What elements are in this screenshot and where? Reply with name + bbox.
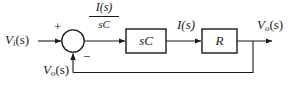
fraction-bar bbox=[89, 16, 119, 17]
plus-sign: + bbox=[54, 20, 61, 33]
feedback-label: Vo(s) bbox=[43, 63, 69, 78]
fraction-denominator: sC bbox=[86, 18, 122, 31]
block-diagram: Vi(s) + − I(s) sC sC I(s) R Vo(s) Vo(s) bbox=[0, 0, 295, 89]
output-symbol: V bbox=[257, 17, 265, 32]
summing-junction-circle bbox=[62, 30, 84, 52]
feedback-arg: (s) bbox=[55, 62, 69, 77]
input-symbol: V bbox=[5, 32, 13, 47]
block-sc-label: sC bbox=[126, 29, 166, 53]
output-arg: (s) bbox=[269, 17, 283, 32]
fraction-numerator: I(s) bbox=[86, 1, 122, 15]
output-label: Vo(s) bbox=[257, 18, 283, 33]
minus-sign: − bbox=[83, 50, 90, 63]
feedback-symbol: V bbox=[43, 62, 51, 77]
intermediate-current-label: I(s) bbox=[177, 18, 195, 31]
error-signal-fraction-label: I(s) sC bbox=[86, 1, 122, 30]
block-r-label: R bbox=[202, 29, 237, 53]
input-arg: (s) bbox=[15, 32, 29, 47]
input-label: Vi(s) bbox=[5, 33, 29, 48]
